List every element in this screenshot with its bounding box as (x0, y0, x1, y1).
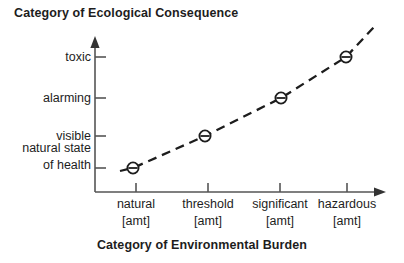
chart-figure: Category of Ecological Consequence (0, 0, 404, 263)
x-tick-label-hazardous: hazardous [amt] (318, 196, 376, 230)
x-tick-label-unit: [amt] (252, 213, 308, 230)
y-axis-ticks (95, 57, 106, 168)
data-series-line (120, 27, 374, 171)
x-axis-title: Category of Environmental Burden (0, 238, 404, 252)
data-point-marker (127, 162, 138, 173)
x-tick-label-name: natural (117, 197, 155, 211)
y-tick-label-toxic: toxic (65, 50, 91, 64)
x-tick-label-name: threshold (182, 197, 233, 211)
x-tick-label-natural: natural [amt] (117, 196, 155, 230)
y-tick-label-alarming: alarming (43, 91, 91, 105)
y-tick-label-line1: natural state (22, 141, 91, 155)
y-tick-label-line2: of health (43, 158, 91, 172)
data-point-marker (275, 92, 286, 103)
y-tick-label-natural-state-of-health: natural state of health (22, 140, 91, 174)
data-point-marker (340, 51, 351, 62)
x-tick-label-name: significant (252, 197, 308, 211)
x-tick-label-unit: [amt] (182, 213, 233, 230)
data-point-marker (199, 130, 210, 141)
x-tick-label-unit: [amt] (117, 213, 155, 230)
x-axis-ticks (136, 183, 347, 192)
x-tick-label-unit: [amt] (318, 213, 376, 230)
x-tick-label-significant: significant [amt] (252, 196, 308, 230)
x-tick-label-threshold: threshold [amt] (182, 196, 233, 230)
x-tick-label-name: hazardous (318, 197, 376, 211)
